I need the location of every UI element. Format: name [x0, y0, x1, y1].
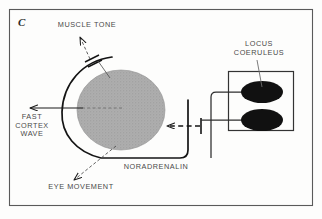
eye-movement-arrow	[74, 146, 116, 180]
central-gray-circle	[77, 70, 165, 150]
label-eye-movement: EYE MOVEMENT	[41, 183, 121, 192]
label-fast-cortex-wave: FAST CORTEX WAVE	[8, 113, 56, 139]
locus-coeruleus-nucleus-upper	[241, 81, 283, 103]
locus-coeruleus-nucleus-lower	[241, 109, 283, 131]
noradrenalin-dashed-arrow	[167, 118, 201, 134]
panel-letter: C	[18, 16, 25, 28]
label-muscle-tone: MUSCLE TONE	[47, 21, 127, 30]
muscle-tone-arrow	[80, 37, 90, 59]
figure-panel-c: C MUSCLE TONE LOCUS COERULEUS FAST CORTE…	[0, 0, 322, 219]
label-noradrenalin: NORADRENALIN	[118, 163, 194, 172]
label-locus-coeruleus: LOCUS COERULEUS	[228, 40, 290, 57]
